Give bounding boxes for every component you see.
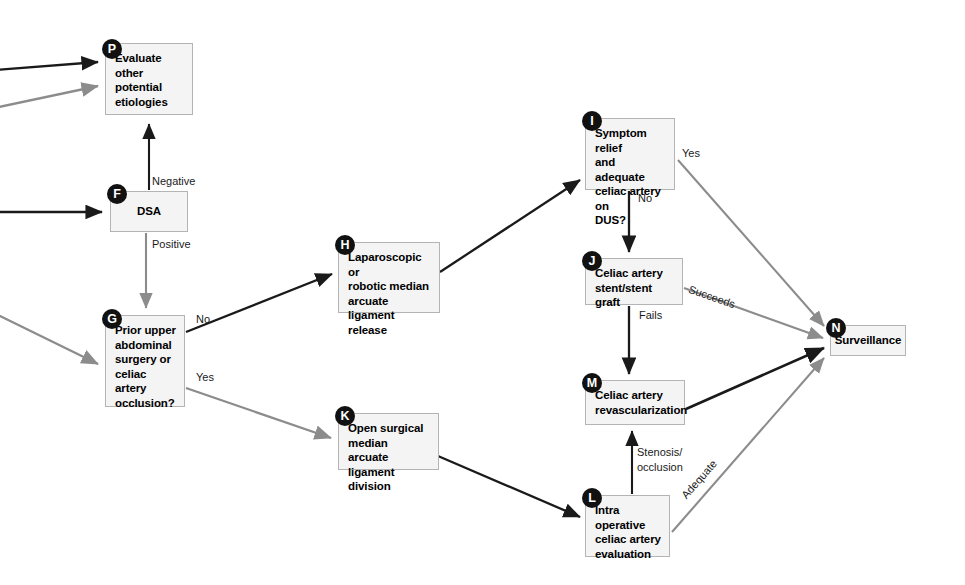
node-N-line-1: Surveillance <box>835 333 902 348</box>
node-H-line-1: Laparoscopic or <box>348 250 431 279</box>
node-M-line-2: revascularization <box>595 403 676 418</box>
node-J-line-2: stent/stent graft <box>595 281 674 310</box>
edge-K-to-L <box>438 456 580 517</box>
edge-offpage-gray-to-G <box>0 313 98 364</box>
node-G-line-1: Prior upper <box>115 323 176 338</box>
node-P-badge: P <box>102 39 122 59</box>
edge-offpage-gray-to-P <box>0 86 98 108</box>
node-F-badge: F <box>107 184 127 204</box>
node-P-line-3: etiologies <box>115 95 184 110</box>
node-J-badge: J <box>582 251 602 271</box>
node-G-badge: G <box>102 309 122 329</box>
node-I-line-1: Symptom relief <box>595 126 666 155</box>
node-G-line-3: surgery or <box>115 352 176 367</box>
edge-M-to-N <box>686 348 824 409</box>
node-I-line-2: and adequate <box>595 155 666 184</box>
edge-label-g-yes: Yes <box>196 371 214 384</box>
node-H-badge: H <box>335 235 355 255</box>
flowchart-canvas: Evaluate other potential etiologies P DS… <box>0 0 965 585</box>
edge-offpage-dark-to-P <box>0 62 98 70</box>
edge-label-i-yes: Yes <box>682 147 700 160</box>
node-L-line-2: celiac artery <box>595 532 661 547</box>
edge-label-positive: Positive <box>152 238 191 251</box>
node-M-line-1: Celiac artery <box>595 388 676 403</box>
node-I-line-4: DUS? <box>595 213 666 228</box>
edge-I-to-N-yes <box>678 160 824 326</box>
node-P-line-1: Evaluate <box>115 51 184 66</box>
node-G-line-4: celiac artery <box>115 367 176 396</box>
node-H-line-3: arcuate ligament <box>348 294 431 323</box>
node-K-line-3: ligament division <box>348 465 430 494</box>
node-I[interactable]: Symptom relief and adequate celiac arter… <box>585 118 675 190</box>
node-K-badge: K <box>335 406 355 426</box>
node-G-line-2: abdominal <box>115 338 176 353</box>
edge-label-l-stenosis-line-1: Stenosis/ <box>637 446 682 459</box>
edge-L-to-N-adequate <box>672 358 824 532</box>
node-H[interactable]: Laparoscopic or robotic median arcuate l… <box>338 242 440 313</box>
node-I-line-3: celiac artery on <box>595 184 666 213</box>
edge-label-l-stenosis-line-2: occlusion <box>637 461 683 474</box>
node-G[interactable]: Prior upper abdominal surgery or celiac … <box>105 315 185 407</box>
edge-label-j-fails: Fails <box>639 309 662 322</box>
node-H-line-4: release <box>348 323 431 338</box>
node-G-line-5: occlusion? <box>115 396 176 411</box>
node-H-line-2: robotic median <box>348 279 431 294</box>
edge-label-negative: Negative <box>152 175 195 188</box>
node-L-line-1: Intra operative <box>595 503 661 532</box>
node-K-line-1: Open surgical <box>348 421 430 436</box>
node-M-badge: M <box>582 373 602 393</box>
edge-label-i-no: No <box>638 192 652 205</box>
node-I-badge: I <box>582 111 602 131</box>
node-P-line-2: other potential <box>115 66 184 95</box>
node-J-line-1: Celiac artery <box>595 266 674 281</box>
node-N-badge: N <box>826 318 846 338</box>
edge-H-to-I <box>440 180 580 272</box>
node-F-line-1: DSA <box>137 204 161 219</box>
edge-label-g-no: No <box>196 313 210 326</box>
edge-G-to-K-yes <box>186 388 331 438</box>
node-K-line-2: median arcuate <box>348 436 430 465</box>
node-L-badge: L <box>582 488 602 508</box>
node-L-line-3: evaluation <box>595 547 661 562</box>
